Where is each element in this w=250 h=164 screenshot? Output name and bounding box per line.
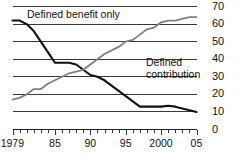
x-axis-tick-label: 05	[191, 138, 203, 149]
y-axis-tick-label: 20	[212, 88, 224, 99]
y-axis-tick-label: 70	[212, 1, 224, 12]
annotation-line: contribution	[146, 68, 200, 80]
y-axis-tick-label: 50	[212, 36, 224, 47]
y-axis-tick-label: 60	[212, 18, 224, 29]
x-axis-tick-label: 85	[49, 138, 61, 149]
x-axis-tick-label: 2000	[149, 138, 172, 149]
x-axis-tick-label: 1979	[1, 138, 24, 149]
y-axis-tick-label: 0	[212, 124, 218, 135]
x-axis-tick-label: 95	[120, 138, 132, 149]
y-axis-tick-label: 10	[212, 106, 224, 117]
annotation-line: Defined	[146, 56, 200, 68]
retirement-plan-line-chart: 7060504030201001979859095200005Defined b…	[0, 0, 250, 164]
defined-benefit-label: Defined benefit only	[27, 9, 120, 21]
y-axis-tick-label: 40	[212, 53, 224, 64]
y-axis-tick-label: 30	[212, 71, 224, 82]
x-axis-tick-label: 90	[84, 138, 96, 149]
defined-contribution-label: Definedcontribution	[146, 56, 200, 80]
